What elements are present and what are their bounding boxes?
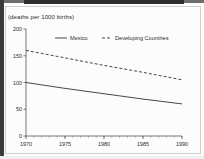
series-line-mexico xyxy=(26,83,182,104)
x-tick-label: 1985 xyxy=(137,141,149,147)
x-tick-label: 1975 xyxy=(59,141,71,147)
x-tick-label: 1970 xyxy=(20,141,32,147)
y-tick-label: 150 xyxy=(13,53,22,59)
y-tick-label: 200 xyxy=(13,26,22,32)
x-tick-label: 1980 xyxy=(98,141,110,147)
y-tick-label: 0 xyxy=(19,133,22,139)
figure-page: (deaths per 1000 births) 050100150200197… xyxy=(0,0,204,159)
legend-label-developing-countries: Developing Countries xyxy=(115,35,169,41)
chart-svg: 05010015020019701975198019851990MexicoDe… xyxy=(0,0,204,159)
series-line-developing-countries xyxy=(26,50,182,79)
legend-label-mexico: Mexico xyxy=(70,35,88,41)
x-tick-label: 1990 xyxy=(176,141,188,147)
y-tick-label: 50 xyxy=(16,106,22,112)
y-tick-label: 100 xyxy=(13,80,22,86)
